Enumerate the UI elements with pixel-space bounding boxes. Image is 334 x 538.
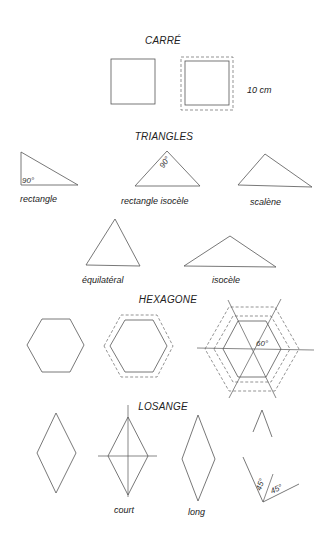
section-carre: CARRÉ 10 cm bbox=[111, 34, 272, 110]
rhombus-plain bbox=[37, 413, 76, 493]
triangle-label: équilatéral bbox=[82, 275, 125, 285]
triangle-scalene: scalène bbox=[238, 154, 312, 207]
section-losange: LOSANGE court long 45° 45° bbox=[37, 401, 299, 517]
triangle-equilateral: équilatéral bbox=[82, 219, 140, 285]
rhombus-tip-caret bbox=[253, 410, 272, 437]
hexagon-plain bbox=[27, 319, 84, 372]
angle-label: 90° bbox=[22, 176, 35, 185]
triangle-label: isocèle bbox=[212, 275, 240, 285]
angle-45-construction: 45° 45° bbox=[243, 457, 299, 502]
rhombus-label: court bbox=[114, 505, 135, 515]
triangle-rectangle: 90° rectangle bbox=[20, 152, 78, 204]
angle-label-b: 45° bbox=[269, 482, 284, 496]
geometry-diagram: CARRÉ 10 cm TRIANGLES 90° rectangle 90° … bbox=[0, 0, 334, 538]
dimension-label: 10 cm bbox=[247, 85, 272, 95]
triangles-title: TRIANGLES bbox=[135, 131, 194, 142]
angle-label-a: 45° bbox=[254, 477, 267, 492]
square-plain bbox=[111, 59, 155, 104]
triangle-label: scalène bbox=[250, 197, 281, 207]
section-hexagone: HEXAGONE 60° bbox=[27, 294, 314, 398]
rhombus-label: long bbox=[188, 507, 205, 517]
square-inner bbox=[185, 61, 229, 105]
triangle-rectangle-isocele: 90° rectangle isocèle bbox=[121, 151, 200, 206]
section-triangles: TRIANGLES 90° rectangle 90° rectangle is… bbox=[20, 131, 312, 285]
carre-title: CARRÉ bbox=[145, 34, 181, 46]
hexagon-offset bbox=[104, 315, 173, 377]
angle-label: 90° bbox=[158, 154, 173, 170]
triangle-label: rectangle isocèle bbox=[121, 196, 189, 206]
rhombus-long: long bbox=[182, 415, 215, 517]
losange-title: LOSANGE bbox=[138, 401, 188, 412]
angle-label: 60° bbox=[256, 339, 269, 348]
hexagone-title: HEXAGONE bbox=[139, 294, 197, 305]
square-offset-dashed bbox=[181, 57, 233, 110]
triangle-isocele: isocèle bbox=[184, 236, 276, 285]
rhombus-court: court bbox=[98, 405, 157, 515]
hexagon-construction: 60° bbox=[197, 299, 314, 398]
triangle-label: rectangle bbox=[20, 194, 57, 204]
